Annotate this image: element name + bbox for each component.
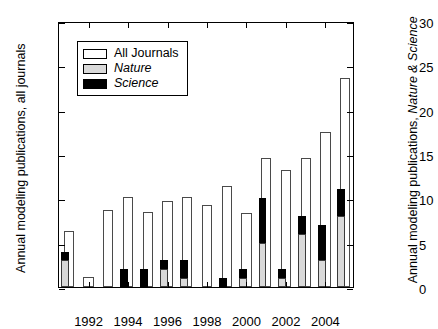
y-tick-label-right-25: 25 xyxy=(419,61,438,74)
bar-segment-science xyxy=(239,269,247,278)
bar-segment-nature xyxy=(298,234,306,287)
x-tick xyxy=(207,282,208,287)
chart-legend: All JournalsNatureScience xyxy=(77,41,188,96)
bar-nature-science-2005 xyxy=(337,189,345,287)
y-tick-left xyxy=(59,245,65,246)
bar-segment-science xyxy=(180,260,188,278)
x-tick xyxy=(89,282,90,287)
x-tick xyxy=(128,282,129,287)
y-tick-left xyxy=(59,23,65,24)
bar-nature-science-1999 xyxy=(219,278,227,287)
legend-label: Nature xyxy=(114,62,152,75)
x-tick xyxy=(325,282,326,287)
bar-segment-science xyxy=(61,252,69,260)
bar-segment-nature xyxy=(180,278,188,287)
bar-segment-nature xyxy=(259,243,267,287)
y-axis-left-title: Annual modeling publications, all journa… xyxy=(15,33,28,283)
bar-nature-science-2004 xyxy=(318,225,326,287)
legend-item-all-journals: All Journals xyxy=(83,46,179,61)
legend-swatch-icon xyxy=(83,64,107,74)
legend-item-nature: Nature xyxy=(83,61,179,76)
y-tick-label-right-0: 0 xyxy=(419,283,438,296)
y-tick-left xyxy=(59,67,65,68)
x-tick-top xyxy=(325,23,326,28)
bar-nature-science-1995 xyxy=(140,269,148,287)
y-tick-label-right-20: 20 xyxy=(419,106,438,119)
x-tick-top xyxy=(168,23,169,28)
legend-swatch-icon xyxy=(83,49,107,59)
y-axis-right-title-italic: Nature & Science xyxy=(406,16,420,113)
bar-segment-science xyxy=(318,225,326,260)
bar-segment-science xyxy=(278,269,286,278)
x-tick-top xyxy=(128,23,129,28)
bar-segment-all-journals xyxy=(222,186,232,287)
bar-segment-all-journals xyxy=(103,210,113,287)
x-tick-top xyxy=(246,23,247,28)
x-tick xyxy=(246,282,247,287)
x-tick-top xyxy=(286,23,287,28)
x-tick xyxy=(286,282,287,287)
y-tick-right xyxy=(347,156,353,157)
y-tick-label-right-15: 15 xyxy=(419,150,438,163)
y-tick-right xyxy=(347,23,353,24)
bar-nature-science-2001 xyxy=(259,198,267,287)
y-tick-left xyxy=(59,156,65,157)
bar-nature-science-1997 xyxy=(180,260,188,287)
bar-segment-science xyxy=(259,198,267,242)
bar-nature-science-1991 xyxy=(61,252,69,287)
y-tick-right xyxy=(347,245,353,246)
y-tick-label-right-10: 10 xyxy=(419,194,438,207)
y-tick-label-right-30: 30 xyxy=(419,17,438,30)
x-tick-label-2004: 2004 xyxy=(295,315,355,328)
legend-label: All Journals xyxy=(114,47,179,60)
bar-segment-science xyxy=(140,269,148,287)
x-tick xyxy=(168,282,169,287)
y-tick-left xyxy=(59,112,65,113)
y-axis-right-title-plain: Annual modeling publications, xyxy=(406,114,420,284)
bar-segment-science xyxy=(160,260,168,269)
y-tick-right xyxy=(347,112,353,113)
y-tick-right xyxy=(347,67,353,68)
bar-nature-science-2003 xyxy=(298,216,306,287)
y-axis-right-title: Annual modeling publications, Nature & S… xyxy=(407,33,420,283)
legend-swatch-icon xyxy=(83,79,107,89)
legend-label: Science xyxy=(114,77,158,90)
bar-segment-nature xyxy=(61,260,69,287)
y-tick-right xyxy=(347,200,353,201)
y-tick-left xyxy=(59,200,65,201)
y-tick-left xyxy=(59,289,65,290)
x-tick-top xyxy=(207,23,208,28)
bar-segment-all-journals xyxy=(202,205,212,287)
x-tick-top xyxy=(89,23,90,28)
y-tick-label-right-5: 5 xyxy=(419,239,438,252)
y-tick-right xyxy=(347,289,353,290)
bar-segment-science xyxy=(337,189,345,216)
plot-area: All JournalsNatureScience 05010015020025… xyxy=(58,22,354,288)
bar-segment-science xyxy=(298,216,306,234)
bar-segment-nature xyxy=(337,216,345,287)
legend-item-science: Science xyxy=(83,76,179,91)
bar-segment-science xyxy=(219,278,227,287)
